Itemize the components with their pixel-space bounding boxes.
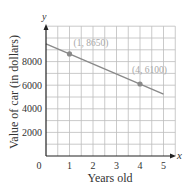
x-tick-label: 5 bbox=[161, 160, 166, 171]
x-axis-label: Years old bbox=[87, 171, 132, 185]
data-point-marker bbox=[67, 51, 72, 56]
y-tick-label: 4000 bbox=[22, 103, 42, 114]
data-point-marker bbox=[137, 81, 142, 86]
x-tick-label: 1 bbox=[67, 160, 72, 171]
y-tick-label: 2000 bbox=[22, 127, 42, 138]
axes: x y bbox=[41, 11, 182, 161]
x-tick-label: 2 bbox=[91, 160, 96, 171]
x-tick-label: 0 bbox=[37, 160, 42, 171]
data-point-label: (1, 8650) bbox=[74, 38, 109, 49]
x-tick-labels: 012345 bbox=[37, 160, 167, 171]
y-axis-arrow-icon bbox=[44, 24, 49, 30]
y-tick-labels: 2000400060008000 bbox=[22, 56, 42, 138]
y-tick-label: 6000 bbox=[22, 80, 42, 91]
line-chart: x y 012345 2000400060008000 (1, 8650)(4,… bbox=[0, 0, 193, 194]
x-tick-label: 3 bbox=[114, 160, 119, 171]
y-axis-label: Value of car (in dollars) bbox=[7, 35, 21, 149]
y-axis-symbol: y bbox=[41, 11, 47, 22]
y-tick-label: 8000 bbox=[22, 56, 42, 67]
x-tick-label: 4 bbox=[138, 160, 143, 171]
x-axis-symbol: x bbox=[176, 149, 182, 161]
data-point-label: (4, 6100) bbox=[132, 65, 167, 76]
